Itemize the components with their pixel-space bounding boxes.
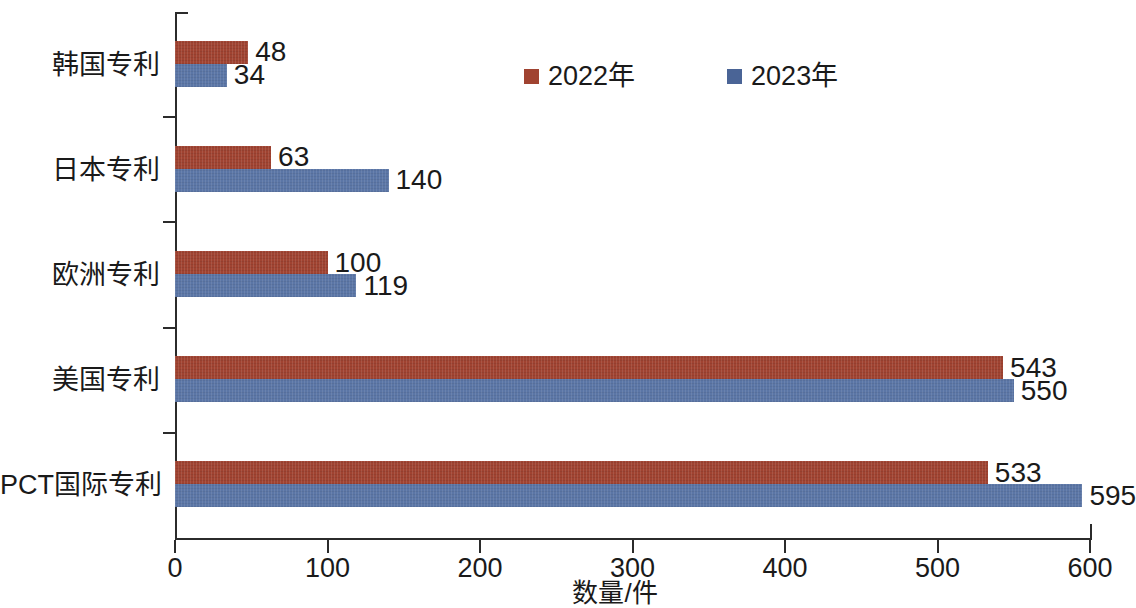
y-axis-category-label: PCT国际专利 [0,470,160,500]
bar-2023年-PCT国际专利 [175,484,1082,507]
x-axis-title: 数量/件 [0,578,1125,608]
bar-2022年-日本专利 [175,146,271,169]
bar-2022年-美国专利 [175,356,1003,379]
legend: 2022年 2023年 [524,62,838,91]
bar-value-label: 550 [1021,376,1068,406]
x-axis-title-text: 数量/件 [467,578,657,608]
bar-value-label: 34 [234,60,265,90]
legend-swatch-2023 [727,69,742,84]
legend-item-2023: 2023年 [727,62,838,91]
bar-2022年-PCT国际专利 [175,461,988,484]
legend-item-2022: 2022年 [524,62,635,91]
bar-2023年-美国专利 [175,379,1014,402]
bar-value-label: 63 [278,142,309,172]
bar-value-label: 595 [1089,481,1136,511]
bar-2022年-欧洲专利 [175,251,328,274]
bar-value-label: 119 [363,271,408,301]
x-axis-line [175,538,1092,540]
bar-value-label: 533 [995,458,1042,488]
legend-label-2023: 2023年 [751,62,838,91]
bar-2023年-韩国专利 [175,64,227,87]
y-axis-category-label: 美国专利 [0,365,160,395]
y-axis-category-label: 日本专利 [0,155,160,185]
y-axis-category-label: 欧洲专利 [0,260,160,290]
legend-swatch-2022 [524,69,539,84]
bar-2023年-欧洲专利 [175,274,356,297]
y-axis-category-label: 韩国专利 [0,50,160,80]
legend-label-2022: 2022年 [548,62,635,91]
bar-2023年-日本专利 [175,169,389,192]
bar-value-label: 140 [396,165,443,195]
x-axis-right-cap [1090,524,1092,540]
